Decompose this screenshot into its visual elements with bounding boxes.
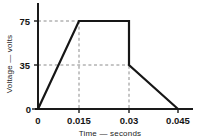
y-tick-label-75: 75 bbox=[19, 16, 30, 27]
x-axis-title: Time — seconds bbox=[79, 129, 142, 138]
voltage-time-chart: 75 35 0 0 0.015 0.03 0.045 Time — second… bbox=[0, 0, 202, 139]
x-tick-label-0015: 0.015 bbox=[67, 115, 91, 126]
x-tick-label-0: 0 bbox=[35, 115, 40, 126]
y-tick-label-35: 35 bbox=[19, 60, 30, 71]
y-tick-label-0: 0 bbox=[26, 104, 31, 115]
y-axis-title: Voltage — volts bbox=[5, 35, 14, 94]
x-tick-label-003: 0.03 bbox=[120, 115, 139, 126]
chart-canvas: 75 35 0 0 0.015 0.03 0.045 Time — second… bbox=[0, 0, 202, 139]
x-tick-label-0045: 0.045 bbox=[166, 115, 190, 126]
